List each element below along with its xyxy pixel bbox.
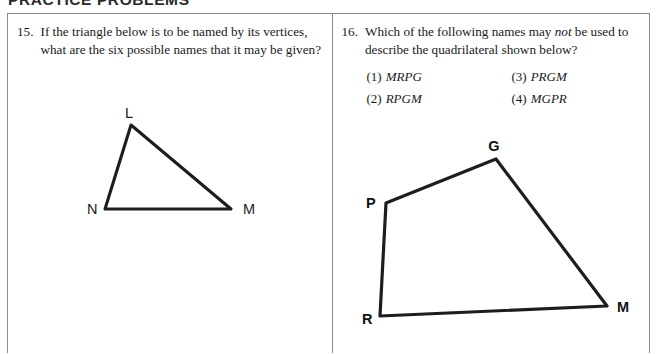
problem-cell-16: 16. Which of the following names may not… xyxy=(333,14,650,353)
triangle-shape xyxy=(105,125,231,209)
vertex-label-m: M xyxy=(243,201,255,217)
triangle-figure-lmn: L M N xyxy=(8,14,333,354)
quadrilateral-figure-rpgm: R P G M xyxy=(333,14,650,354)
quadrilateral-shape xyxy=(380,159,607,316)
vertex-label-r: R xyxy=(362,311,373,327)
practice-problems-table: 15. If the triangle below is to be named… xyxy=(7,13,650,353)
vertex-label-p: P xyxy=(366,195,376,211)
page-title: PRACTICE PROBLEMS xyxy=(8,0,190,9)
vertex-label-m-quad: M xyxy=(617,299,629,315)
vertex-label-g: G xyxy=(488,138,499,154)
vertex-label-l: L xyxy=(125,105,133,121)
vertex-label-n: N xyxy=(87,201,97,217)
problem-cell-15: 15. If the triangle below is to be named… xyxy=(8,14,333,353)
